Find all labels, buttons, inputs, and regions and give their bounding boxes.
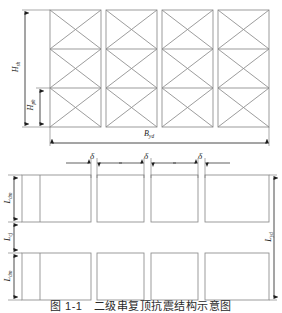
label-delta-3: δ [198,151,202,161]
truss-panel-4 [218,10,269,127]
label-delta-2: δ [144,151,148,161]
label-L-dm-bottom-sub: dm [7,270,13,276]
label-L-cj-sub: cj [7,233,13,237]
plan-module-group [22,175,269,300]
label-B-yd: Byd [144,130,154,138]
label-L-dm-top-sub: dm [7,192,13,198]
elevation-witness-lines [22,10,269,146]
label-H-sh: Hsh [12,54,20,80]
plan-witness-lines [8,175,277,300]
label-B-yd-sub: yd [149,133,154,139]
plan-row-top [22,175,269,222]
structural-diagram [0,0,282,313]
label-L-dm-bottom: Ldm [4,263,12,289]
label-delta-1: δ [90,151,94,161]
plan-row-bottom [22,253,269,300]
label-L-dm-top: Ldm [4,185,12,211]
figure-caption: 图 1-1 二级串复顶抗震结构示意图 [0,297,282,313]
truss-panel-group [50,10,269,127]
truss-panel-3 [162,10,213,127]
label-L-yd-base: L [264,237,273,241]
label-L-yd: Lyd [265,224,273,250]
label-H-ph: Hph [27,92,35,118]
label-H-sh-base: H [11,66,20,72]
label-L-dm-top-base: L [3,199,12,203]
label-L-yd-sub: yd [268,232,274,237]
label-H-sh-sub: sh [15,62,21,67]
label-L-cj: Lcj [4,224,12,250]
label-H-ph-sub: ph [30,99,36,104]
truss-panel-2 [106,10,157,127]
truss-panel-1 [50,10,101,127]
label-L-dm-bottom-base: L [3,277,12,281]
figure-root: Hsh Hph Byd δ δ δ Ldm Lcj Ldm Lyd 图 1-1 … [0,0,282,313]
label-L-cj-base: L [3,237,12,241]
label-H-ph-base: H [26,105,35,111]
